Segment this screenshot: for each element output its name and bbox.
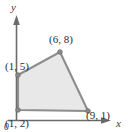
coordinate-plane-figure: y x 0 (1, 5) (6, 8) (1, 2) (9, 1) (0, 0, 128, 132)
y-axis-arrowhead (13, 15, 20, 25)
vertex-label-9-1: (9, 1) (86, 109, 110, 122)
figure-canvas: y x 0 (1, 5) (6, 8) (1, 2) (9, 1) (0, 0, 128, 132)
vertex-dot-6-8 (58, 50, 63, 55)
vertex-dot-1-5 (16, 73, 21, 78)
vertex-label-1-5: (1, 5) (5, 60, 29, 73)
y-axis-label: y (10, 1, 16, 13)
vertex-label-1-2: (1, 2) (5, 117, 29, 130)
x-axis-label: x (115, 117, 121, 129)
vertex-label-6-8: (6, 8) (49, 33, 73, 46)
vertex-dot-1-2 (16, 108, 21, 113)
